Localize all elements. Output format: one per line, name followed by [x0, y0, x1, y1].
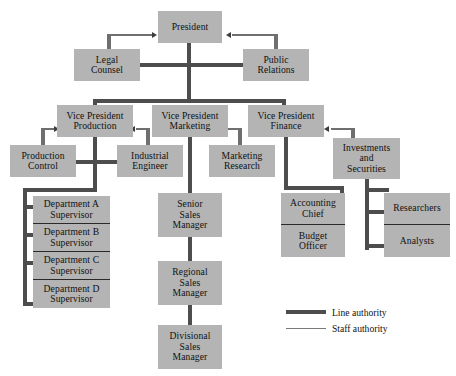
edge-industrial-engineer-vertical — [146, 128, 150, 146]
edge-marketing-research-vertical — [238, 128, 242, 146]
edge-legal-counsel-horizontal — [107, 34, 153, 36]
legend-label-staff-authority: Staff authority — [332, 323, 388, 334]
organization-chart: President Legal Counsel Public Relations… — [0, 0, 456, 376]
edge-production-control-horizontal — [41, 128, 55, 130]
edge-production-control-vertical — [41, 128, 45, 146]
node-legal-counsel[interactable]: Legal Counsel — [74, 49, 140, 81]
arrowhead-public-relations-to-president-icon — [226, 32, 231, 38]
node-production-control[interactable]: Production Control — [10, 145, 76, 177]
node-researchers[interactable]: Researchers — [384, 193, 450, 225]
node-vp-marketing[interactable]: Vice President Marketing — [152, 105, 228, 137]
node-industrial-engineer[interactable]: Industrial Engineer — [117, 145, 183, 177]
edge-research-bus-top — [369, 188, 389, 192]
node-vp-finance[interactable]: Vice President Finance — [248, 105, 324, 137]
node-budget-officer[interactable]: Budget Officer — [281, 225, 345, 257]
node-senior-sales-manager[interactable]: Senior Sales Manager — [158, 193, 222, 237]
node-president[interactable]: President — [158, 11, 222, 43]
node-department-a-supervisor[interactable]: Department A Supervisor — [33, 196, 110, 224]
arrowhead-legal-counsel-to-president-icon — [152, 32, 157, 38]
node-accounting-chief[interactable]: Accounting Chief — [281, 193, 345, 225]
arrowhead-investments-to-vp-finance-icon — [324, 126, 329, 132]
node-public-relations[interactable]: Public Relations — [243, 49, 309, 81]
edge-finance-bus-top — [284, 186, 344, 190]
edge-department-bus-top — [23, 188, 97, 192]
edge-industrial-engineer-horizontal — [136, 128, 150, 130]
edge-public-relations-horizontal — [232, 34, 278, 36]
node-department-b-supervisor[interactable]: Department B Supervisor — [33, 224, 110, 252]
node-marketing-research[interactable]: Marketing Research — [209, 145, 275, 177]
edge-vp-marketing-spine — [188, 137, 192, 193]
node-investments-and-securities[interactable]: Investments and Securities — [333, 138, 400, 179]
edge-marketing-research-horizontal — [228, 128, 242, 130]
edge-research-bus-vertical — [365, 188, 369, 250]
edge-investments-horizontal — [331, 128, 355, 130]
node-department-c-supervisor[interactable]: Department C Supervisor — [33, 252, 110, 280]
node-regional-sales-manager[interactable]: Regional Sales Manager — [158, 261, 222, 305]
legend: Line authority Staff authority — [286, 304, 452, 336]
node-department-d-supervisor[interactable]: Department D Supervisor — [33, 280, 110, 308]
edge-vp-production-spine — [93, 137, 97, 191]
edge-regional-to-divisional — [188, 305, 192, 325]
node-vp-production[interactable]: Vice President Production — [57, 105, 133, 137]
edge-senior-to-regional — [188, 237, 192, 261]
edge-staff-band — [136, 63, 246, 67]
edge-public-relations-vertical — [274, 34, 278, 50]
edge-vp-finance-spine — [284, 137, 288, 190]
edge-legal-counsel-vertical — [107, 34, 111, 50]
legend-row-line-authority: Line authority — [286, 304, 452, 320]
staff-authority-swatch-icon — [286, 328, 326, 329]
edge-vp-bus — [93, 99, 286, 103]
node-divisional-sales-manager[interactable]: Divisional Sales Manager — [158, 325, 222, 369]
edge-production-staff-band — [74, 160, 120, 164]
node-analysts[interactable]: Analysts — [384, 225, 450, 257]
legend-label-line-authority: Line authority — [332, 307, 387, 318]
edge-president-spine — [187, 43, 191, 103]
legend-row-staff-authority: Staff authority — [286, 320, 452, 336]
line-authority-swatch-icon — [286, 310, 326, 314]
